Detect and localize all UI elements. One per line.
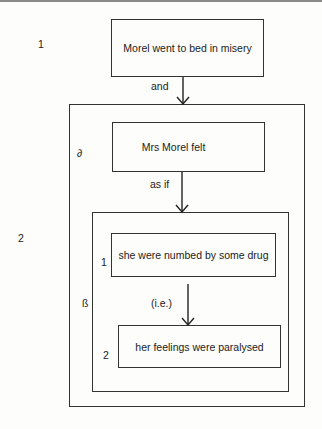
arrow-and [177, 77, 189, 104]
arrow-ie [182, 284, 194, 325]
arrow-as-if [176, 172, 188, 212]
arrows-layer [0, 0, 322, 429]
